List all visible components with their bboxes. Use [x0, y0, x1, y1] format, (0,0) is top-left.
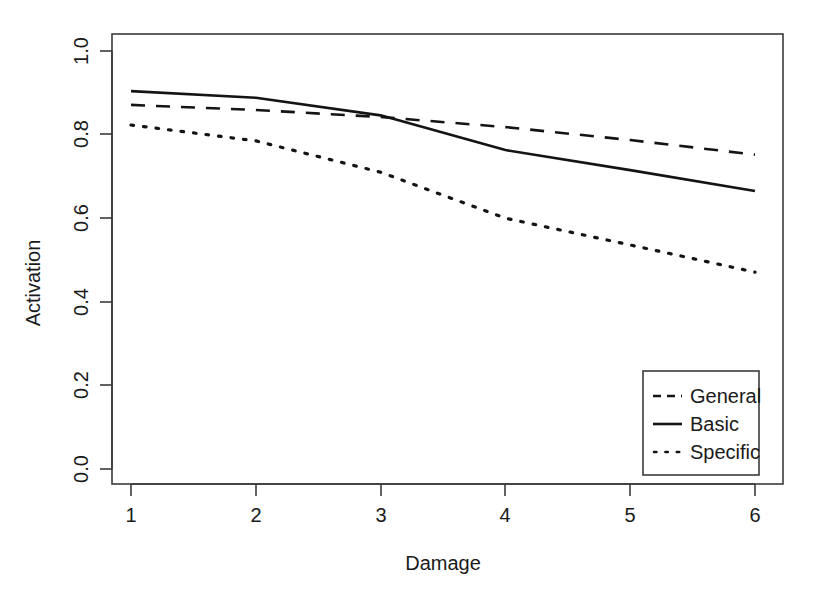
x-tick-label-5: 6	[749, 504, 760, 526]
y-tick-label-3: 0.6	[70, 204, 92, 232]
y-axis-title: Activation	[22, 240, 44, 327]
y-tick-label-5: 1.0	[70, 37, 92, 65]
y-axis-ticks	[100, 51, 112, 469]
x-axis-title: Damage	[405, 552, 481, 574]
x-tick-label-0: 1	[125, 504, 136, 526]
x-tick-label-4: 5	[624, 504, 635, 526]
x-tick-label-2: 3	[375, 504, 386, 526]
y-tick-label-2: 0.4	[70, 288, 92, 316]
x-tick-label-1: 2	[250, 504, 261, 526]
line-chart-canvas: 0.0 0.2 0.4 0.6 0.8 1.0 Activation 1 2 3…	[0, 0, 815, 606]
x-tick-label-3: 4	[499, 504, 510, 526]
series-group	[131, 91, 755, 272]
chart-legend[interactable]: General Basic Specific	[643, 371, 761, 475]
series-line-specific	[131, 125, 755, 272]
y-axis-tick-labels: 0.0 0.2 0.4 0.6 0.8 1.0	[70, 37, 92, 483]
y-tick-label-0: 0.0	[70, 455, 92, 483]
series-line-general	[131, 105, 755, 155]
x-axis-tick-labels: 1 2 3 4 5 6	[125, 504, 760, 526]
legend-label-specific: Specific	[690, 441, 760, 463]
x-axis-ticks	[131, 484, 755, 496]
series-line-basic	[131, 91, 755, 191]
legend-label-basic: Basic	[690, 413, 739, 435]
chart-figure: 0.0 0.2 0.4 0.6 0.8 1.0 Activation 1 2 3…	[0, 0, 815, 606]
legend-label-general: General	[690, 385, 761, 407]
y-tick-label-1: 0.2	[70, 371, 92, 399]
y-tick-label-4: 0.8	[70, 120, 92, 148]
